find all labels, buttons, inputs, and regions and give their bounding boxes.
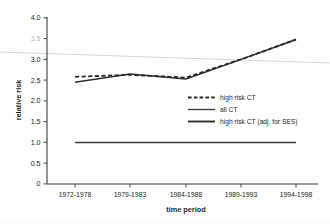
y-tick-label-0-5: 0.5 — [31, 160, 41, 168]
legend-label-high-risk-ct-adj-ses: high risk CT (adj. for SES) — [220, 118, 298, 126]
x-tick-label-1994-1998: 1994-1998 — [280, 191, 313, 198]
y-tick-label-1-0: 1.0 — [31, 139, 41, 147]
x-tick-label-1984-1988: 1984-1988 — [170, 191, 203, 198]
y-axis-title: relative risk — [14, 79, 23, 121]
y-tick-label-0: 0 — [37, 180, 41, 188]
y-tick-label-2-5: 2.5 — [31, 77, 41, 85]
y-tick-label-2-0: 2.0 — [31, 97, 41, 105]
x-axis-title: time period — [166, 205, 205, 214]
chart-container: 4.0 3.5 3.0 2.5 2.0 1.5 1.0 0.5 0 1972-1… — [0, 0, 330, 224]
legend-label-high-risk-ct: high risk CT — [220, 94, 256, 102]
x-tick-label-1979-1983: 1979-1983 — [114, 191, 147, 198]
x-tick-label-1989-1993: 1989-1993 — [225, 191, 258, 198]
x-tick-label-1972-1978: 1972-1978 — [59, 191, 92, 198]
relative-risk-line-chart: 4.0 3.5 3.0 2.5 2.0 1.5 1.0 0.5 0 1972-1… — [0, 0, 330, 224]
y-tick-label-3-5: 3.5 — [31, 35, 41, 43]
y-tick-label-1-5: 1.5 — [31, 118, 41, 126]
y-tick-label-3-0: 3.0 — [31, 56, 41, 64]
legend-label-all-ct: all CT — [220, 106, 237, 113]
y-tick-label-4-0: 4.0 — [31, 14, 41, 22]
